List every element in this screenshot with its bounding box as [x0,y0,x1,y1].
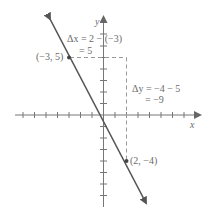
delta-y-line1: Δy = −4 − 5 [132,84,180,94]
delta-x-line2: = 5 [79,46,92,56]
line-through-points [50,19,146,203]
point-label-2-neg4: (2, −4) [130,156,157,166]
y-axis-label: y [95,17,99,27]
y-axis [100,17,107,207]
point-label-neg3-5: (−3, 5) [36,52,63,62]
x-axis [15,112,200,118]
point-neg3-5 [67,56,71,60]
point-2-neg4 [125,159,129,163]
x-axis-label: x [190,120,194,130]
delta-y-line2: = −9 [145,95,164,105]
delta-x-line1: Δx = 2 − (−3) [67,34,122,44]
